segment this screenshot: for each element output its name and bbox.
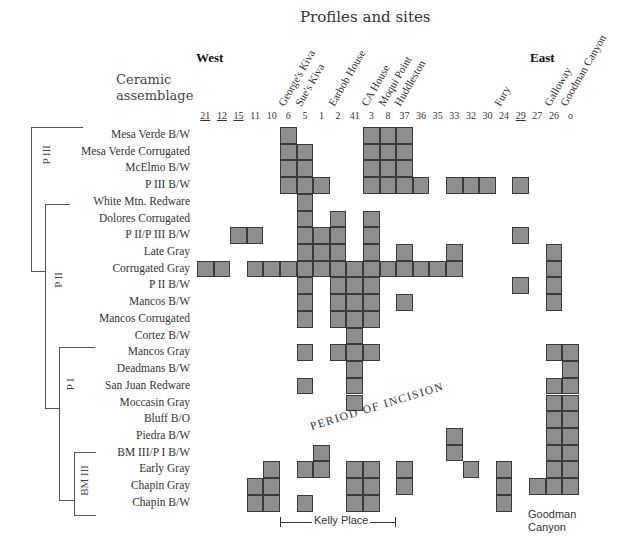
presence-cell [330, 244, 347, 261]
column-number: 21 [197, 110, 214, 122]
presence-cell [230, 227, 247, 244]
presence-cell [446, 261, 463, 278]
presence-cell [330, 294, 347, 311]
presence-cell [413, 261, 430, 278]
column-number: 33 [446, 110, 463, 122]
bracket-line [31, 127, 83, 128]
presence-cell [546, 277, 563, 294]
axis-label-line2: assemblage [116, 88, 193, 104]
presence-cell [297, 495, 314, 512]
row-label: Cortez B/W [135, 327, 190, 344]
row-label: P II/P III B/W [125, 226, 190, 243]
column-number: 29 [512, 110, 529, 122]
presence-cell [562, 361, 579, 378]
column-number: 12 [214, 110, 231, 122]
presence-cell [463, 461, 480, 478]
presence-cell [546, 344, 563, 361]
presence-cell [346, 328, 363, 345]
presence-cell [363, 261, 380, 278]
presence-cell [380, 127, 397, 144]
presence-cell [363, 177, 380, 194]
presence-cell [396, 177, 413, 194]
presence-cell [512, 227, 529, 244]
presence-cell [380, 160, 397, 177]
presence-cell [562, 445, 579, 462]
presence-cell [562, 411, 579, 428]
presence-cell [446, 177, 463, 194]
row-label: San Juan Redware [105, 377, 190, 394]
goodman-line1: Goodman [528, 508, 576, 521]
column-number: o [562, 110, 579, 122]
column-number: 24 [496, 110, 513, 122]
presence-cell [546, 244, 563, 261]
row-label: Dolores Corrugated [99, 210, 190, 227]
presence-cell [330, 344, 347, 361]
presence-cell [346, 261, 363, 278]
column-number: 32 [463, 110, 480, 122]
bracket-line [31, 271, 45, 272]
ceramic-assemblage-label: Ceramic assemblage [116, 72, 193, 104]
presence-cell [396, 160, 413, 177]
presence-cell [479, 177, 496, 194]
presence-cell [263, 261, 280, 278]
row-label: BM III/P I B/W [117, 444, 190, 461]
presence-cell [313, 261, 330, 278]
presence-cell [297, 311, 314, 328]
presence-cell [380, 144, 397, 161]
presence-cell [363, 211, 380, 228]
row-label: Deadmans B/W [117, 360, 190, 377]
presence-cell [546, 411, 563, 428]
kelly-place-bracket: Kelly Place [280, 514, 396, 530]
goodman-canyon-label: Goodman Canyon [528, 508, 576, 534]
period-label: P II [52, 272, 64, 288]
bracket-line [45, 408, 59, 409]
presence-cell [446, 428, 463, 445]
presence-cell [546, 428, 563, 445]
presence-cell [463, 177, 480, 194]
presence-cell [363, 277, 380, 294]
presence-cell [297, 344, 314, 361]
bracket-line [59, 347, 95, 348]
presence-cell [297, 227, 314, 244]
presence-cell [363, 160, 380, 177]
presence-cell [529, 478, 546, 495]
presence-cell [562, 428, 579, 445]
bracket-line [74, 452, 96, 453]
row-label: Mesa Verde B/W [111, 126, 190, 143]
presence-cell [562, 461, 579, 478]
column-number: 35 [429, 110, 446, 122]
presence-cell [396, 461, 413, 478]
column-number: 26 [546, 110, 563, 122]
presence-cell [346, 361, 363, 378]
presence-cell [346, 277, 363, 294]
presence-cell [297, 244, 314, 261]
presence-cell [363, 478, 380, 495]
presence-cell [297, 378, 314, 395]
presence-cell [496, 478, 513, 495]
presence-cell [297, 144, 314, 161]
presence-cell [280, 144, 297, 161]
presence-cell [313, 445, 330, 462]
column-number: 5 [297, 110, 314, 122]
row-label: McElmo B/W [125, 159, 190, 176]
presence-cell [313, 244, 330, 261]
presence-cell [346, 461, 363, 478]
column-number: 11 [247, 110, 264, 122]
axis-label-line1: Ceramic [116, 72, 193, 88]
bracket-line [45, 204, 70, 205]
column-number: 36 [413, 110, 430, 122]
presence-cell [297, 294, 314, 311]
row-label: Mancos Corrugated [99, 310, 190, 327]
presence-cell [247, 495, 264, 512]
row-label: Corrugated Gray [112, 260, 190, 277]
presence-cell [263, 461, 280, 478]
row-label: Chapin Gray [131, 477, 190, 494]
bracket-line [45, 204, 46, 408]
row-label: Late Gray [144, 243, 190, 260]
presence-cell [546, 378, 563, 395]
presence-cell [297, 277, 314, 294]
presence-cell [396, 244, 413, 261]
row-label: Mancos Gray [128, 343, 190, 360]
row-label: Mesa Verde Corrugated [81, 143, 190, 160]
presence-cell [346, 344, 363, 361]
